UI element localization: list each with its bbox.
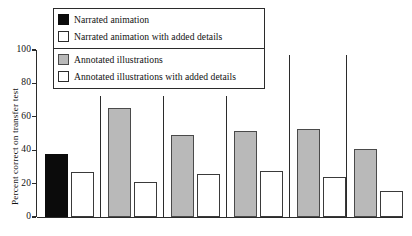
chart-legend: Narrated animation Narrated animation wi… xyxy=(53,8,265,89)
group-divider xyxy=(289,55,290,217)
y-axis-tick-label: 60 xyxy=(0,112,31,122)
bar xyxy=(171,135,194,217)
y-axis-tick xyxy=(32,150,36,151)
bar xyxy=(108,108,131,217)
legend-item-label: Narrated animation xyxy=(74,14,149,25)
legend-swatch-black-icon xyxy=(58,14,69,25)
legend-group-annotated: Annotated illustrations Annotated illust… xyxy=(53,49,265,89)
bar xyxy=(260,171,283,217)
legend-swatch-white-icon xyxy=(58,31,69,42)
y-axis-line xyxy=(36,50,37,217)
bar xyxy=(197,174,220,217)
y-axis-tick xyxy=(32,83,36,84)
y-axis-tick-label: 80 xyxy=(0,78,31,88)
bar xyxy=(134,182,157,217)
legend-swatch-white-icon xyxy=(58,71,69,82)
y-axis-tick-label: 0 xyxy=(0,212,31,222)
legend-item: Narrated animation xyxy=(58,11,260,28)
legend-item-label: Annotated illustrations xyxy=(74,54,163,65)
y-axis-tick xyxy=(32,116,36,117)
y-axis-tick xyxy=(32,49,36,50)
legend-item-label: Narrated animation with added details xyxy=(74,31,222,42)
bar xyxy=(354,149,377,217)
group-divider xyxy=(163,96,164,217)
group-divider xyxy=(226,96,227,217)
legend-item: Annotated illustrations xyxy=(58,51,260,68)
legend-item-label: Annotated illustrations with added detai… xyxy=(74,71,236,82)
bar xyxy=(323,177,346,217)
y-axis-tick xyxy=(32,216,36,217)
y-axis-tick-label: 20 xyxy=(0,179,31,189)
chart-canvas: Percent correct on transfer test 1008060… xyxy=(0,0,412,236)
group-divider xyxy=(346,55,347,217)
legend-item: Annotated illustrations with added detai… xyxy=(58,68,260,85)
bar xyxy=(297,129,320,218)
y-axis-tick-label: 40 xyxy=(0,145,31,155)
y-axis-tick-label: 100 xyxy=(0,45,31,55)
legend-item: Narrated animation with added details xyxy=(58,28,260,45)
legend-group-narrated: Narrated animation Narrated animation wi… xyxy=(53,8,265,49)
bar xyxy=(380,191,403,217)
bar xyxy=(71,172,94,217)
y-axis-tick xyxy=(32,183,36,184)
bar xyxy=(45,154,68,217)
legend-swatch-gray-icon xyxy=(58,54,69,65)
group-divider xyxy=(100,96,101,217)
bar xyxy=(234,131,257,217)
